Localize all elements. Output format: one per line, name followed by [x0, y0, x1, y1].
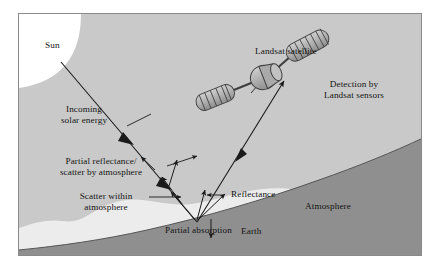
figure-stage: Sun Incoming solar energy Partial reflec… — [0, 0, 438, 271]
label-sun: Sun — [45, 40, 60, 52]
label-incoming-line1: Incoming — [41, 104, 127, 116]
label-atmosphere: Atmosphere — [305, 201, 351, 213]
label-incoming-line2: solar energy — [41, 115, 127, 127]
diagram-canvas — [19, 14, 422, 256]
diagram-frame: Sun Incoming solar energy Partial reflec… — [18, 13, 422, 256]
label-partial-absorption: Partial absorption — [165, 225, 232, 237]
label-landsat-satellite: Landsat satellite — [255, 46, 317, 58]
label-earth: Earth — [241, 226, 261, 238]
label-partial-reflectance-line2: scatter by atmosphere — [37, 167, 165, 179]
label-partial-reflectance-line1: Partial reflectance/ — [37, 156, 165, 168]
label-scatter-within-line1: Scatter within — [63, 191, 149, 203]
label-detection-line2: Landsat sensors — [305, 90, 403, 102]
label-detection-line1: Detection by — [305, 79, 403, 91]
label-reflectance: Reflectance — [231, 189, 275, 201]
label-scatter-within-line2: atmosphere — [63, 202, 149, 214]
